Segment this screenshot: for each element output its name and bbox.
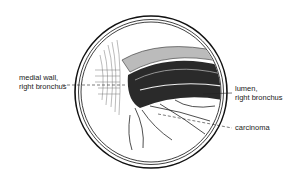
label-lumen-line2: right bronchus — [235, 94, 283, 103]
label-lumen: lumen, right bronchus — [235, 85, 283, 102]
label-carcinoma: carcinoma — [235, 124, 270, 133]
label-medial-wall-line2: right bronchus — [19, 83, 67, 92]
airway-interior — [95, 40, 222, 150]
label-medial-wall: medial wall, right bronchus — [19, 74, 67, 91]
